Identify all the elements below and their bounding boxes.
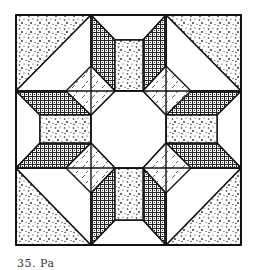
left-arm-center-stipple [40, 115, 91, 143]
top-arm-center-stipple [115, 40, 143, 91]
quilt-block [16, 15, 241, 245]
figure-caption: 35. Pa [17, 257, 54, 270]
quilt-block-diagram [0, 0, 257, 250]
bottom-arm-center-stipple [115, 168, 143, 220]
right-arm-center-stipple [166, 115, 217, 143]
